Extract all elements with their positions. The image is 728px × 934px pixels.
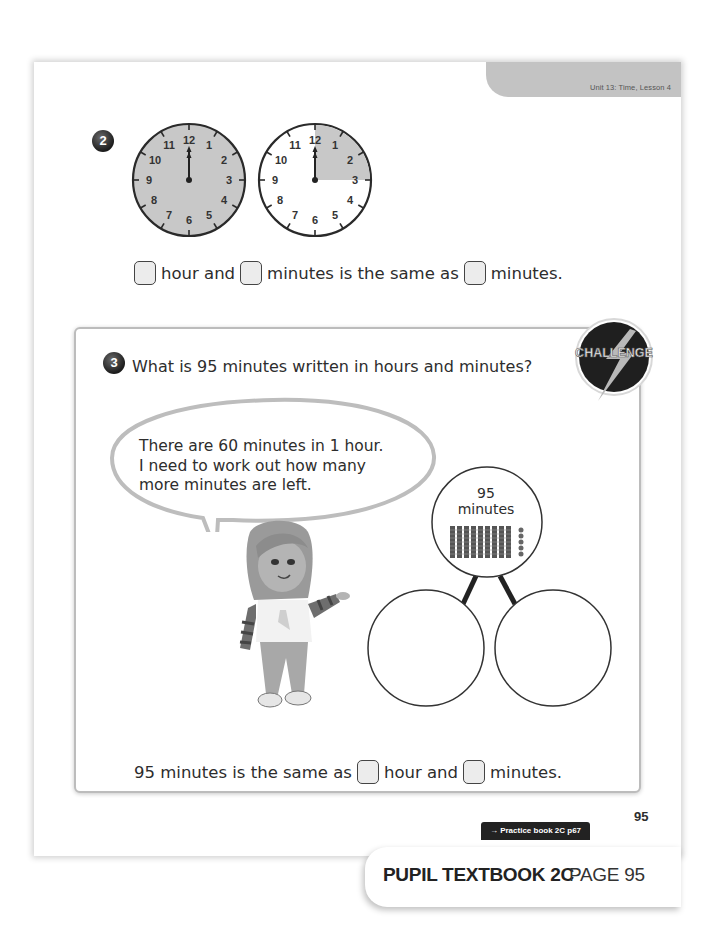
clock-quarter-shaded: 1212 345 678 91011 [256,121,374,239]
svg-text:10: 10 [149,154,161,166]
sentence-text: hour and [384,763,458,782]
sentence-text: 95 minutes is the same as [134,763,352,782]
speech-line: There are 60 minutes in 1 hour. [139,437,384,457]
book-title: PUPIL TEXTBOOK 2C [383,864,574,886]
svg-text:5: 5 [332,209,338,221]
svg-text:7: 7 [292,209,298,221]
svg-text:10: 10 [275,154,287,166]
svg-text:9: 9 [272,174,278,186]
total-minutes-answer-box[interactable] [464,261,486,285]
minutes-answer-box[interactable] [463,760,485,784]
whole-circle [432,467,542,577]
svg-text:12: 12 [183,134,195,146]
unit-header-tab: Unit 13: Time, Lesson 4 [486,62,681,97]
whole-number: 95 [446,485,526,501]
svg-text:6: 6 [312,214,318,226]
svg-text:9: 9 [146,174,152,186]
unit-label: Unit 13: Time, Lesson 4 [590,83,671,92]
question-number-badge: 2 [92,130,114,152]
speech-bubble-text: There are 60 minutes in 1 hour. I need t… [139,437,384,496]
part-circle-left[interactable] [368,590,484,706]
svg-text:2: 2 [347,154,353,166]
svg-text:4: 4 [347,194,354,206]
hours-answer-box[interactable] [134,261,156,285]
svg-text:8: 8 [151,194,157,206]
svg-text:11: 11 [289,139,301,151]
page-number: 95 [634,809,648,824]
book-page-tab: PUPIL TEXTBOOK 2C PAGE 95 [365,847,681,907]
svg-text:8: 8 [277,194,283,206]
speech-line: I need to work out how many [139,457,384,477]
challenge-label: CHALLENGE [575,346,653,360]
svg-text:1: 1 [332,139,338,151]
page-label: PAGE 95 [569,864,645,886]
challenge-badge-icon: CHALLENGE [568,315,660,407]
question-number-badge: 3 [103,352,125,374]
whole-unit: minutes [446,501,526,517]
minutes-answer-box[interactable] [240,261,262,285]
svg-text:2: 2 [221,154,227,166]
svg-text:3: 3 [226,174,232,186]
sentence-text: hour and [161,264,235,283]
part-circle-right[interactable] [495,590,611,706]
question3-answer-sentence: 95 minutes is the same as hour and minut… [134,760,562,784]
hours-answer-box[interactable] [357,760,379,784]
question2-answer-sentence: hour and minutes is the same as minutes. [134,261,563,285]
svg-text:4: 4 [221,194,228,206]
sentence-text: minutes. [490,763,562,782]
svg-text:7: 7 [166,209,172,221]
whole-label: 95 minutes [446,485,526,517]
question3-text: What is 95 minutes written in hours and … [132,357,532,376]
sentence-text: minutes is the same as [267,264,459,283]
svg-text:11: 11 [163,139,175,151]
svg-text:5: 5 [206,209,212,221]
sentence-text: minutes. [491,264,563,283]
svg-text:6: 6 [186,214,192,226]
speech-line: more minutes are left. [139,476,384,496]
svg-text:3: 3 [352,174,358,186]
svg-text:1: 1 [206,139,212,151]
practice-book-link[interactable]: → Practice book 2C p67 [481,822,590,840]
svg-text:12: 12 [309,134,321,146]
clock-full-shaded: 1212 345 678 91011 [130,121,248,239]
girl-character-illustration [228,518,356,714]
